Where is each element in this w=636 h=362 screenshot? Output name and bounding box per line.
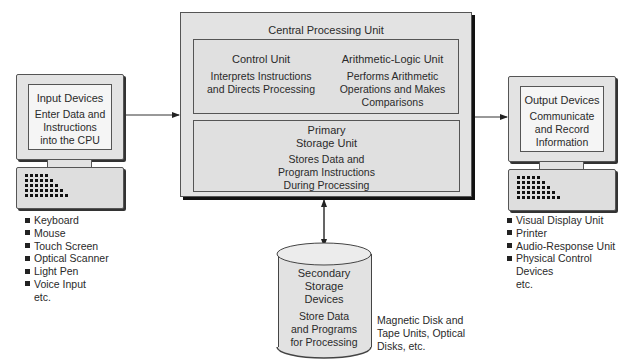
output-desc-2: and Record [521, 123, 603, 136]
cpu-box: Central Processing Unit Control Unit Int… [180, 12, 472, 197]
list-item: Touch Screen [25, 240, 109, 253]
secondary-title-1: Secondary [278, 267, 370, 280]
primary-storage-box: Primary Storage Unit Stores Data and Pro… [193, 120, 460, 192]
list-item-etc: etc. [25, 291, 109, 304]
input-examples-list: Keyboard Mouse Touch Screen Optical Scan… [25, 214, 109, 304]
list-item-etc: etc. [507, 278, 615, 291]
alu-desc-3: Comparisons [327, 96, 458, 109]
secondary-example-2: Tape Units, Optical [377, 327, 465, 340]
alu-desc-1: Performs Arithmetic [327, 70, 458, 83]
input-keyboard-icon [16, 167, 124, 209]
secondary-desc-2: and Programs [278, 323, 370, 336]
list-item: Physical Control [507, 252, 615, 265]
input-title: Input Devices [29, 92, 111, 105]
control-unit-box: Control Unit Interprets Instructions and… [193, 39, 329, 114]
input-screen: Input Devices Enter Data and Instruction… [28, 84, 112, 150]
alu-box: Arithmetic-Logic Unit Performs Arithmeti… [327, 39, 459, 114]
input-desc-1: Enter Data and [29, 108, 111, 121]
list-item: Printer [507, 227, 615, 240]
secondary-title-2: Storage [278, 280, 370, 293]
secondary-desc-1: Store Data [278, 310, 370, 323]
output-screen: Output Devices Communicate and Record In… [520, 86, 604, 152]
list-item: Visual Display Unit [507, 214, 615, 227]
input-desc-2: Instructions [29, 121, 111, 134]
primary-storage-desc-3: During Processing [194, 179, 459, 192]
output-title: Output Devices [521, 94, 603, 107]
input-desc-3: into the CPU [29, 134, 111, 147]
primary-storage-title-1: Primary [194, 124, 459, 137]
list-item-cont: Devices [507, 265, 615, 278]
secondary-storage-text: Secondary Storage Devices Store Data and… [278, 267, 370, 349]
secondary-desc-3: for Processing [278, 336, 370, 349]
list-item: Audio-Response Unit [507, 240, 615, 253]
output-examples-list: Visual Display Unit Printer Audio-Respon… [507, 214, 615, 291]
primary-storage-desc-2: Program Instructions [194, 166, 459, 179]
list-item: Keyboard [25, 214, 109, 227]
alu-title: Arithmetic-Logic Unit [327, 53, 458, 66]
control-unit-title: Control Unit [194, 53, 328, 66]
secondary-example-1: Magnetic Disk and [377, 314, 465, 327]
list-item: Mouse [25, 227, 109, 240]
primary-storage-desc-1: Stores Data and [194, 153, 459, 166]
keypad-dots-icon [25, 174, 85, 204]
primary-storage-title-2: Storage Unit [194, 137, 459, 150]
secondary-title-3: Devices [278, 293, 370, 306]
control-unit-desc-1: Interprets Instructions [194, 70, 328, 83]
list-item: Optical Scanner [25, 252, 109, 265]
output-desc-1: Communicate [521, 110, 603, 123]
list-item: Voice Input [25, 278, 109, 291]
output-keyboard-icon [508, 169, 616, 211]
alu-desc-2: Operations and Makes [327, 83, 458, 96]
cpu-title: Central Processing Unit [181, 24, 471, 37]
keypad-dots-icon [517, 176, 577, 206]
input-monitor-icon: Input Devices Enter Data and Instruction… [16, 74, 124, 160]
secondary-example-3: Disks, etc. [377, 340, 465, 353]
control-unit-desc-2: and Directs Processing [194, 83, 328, 96]
output-monitor-icon: Output Devices Communicate and Record In… [508, 76, 616, 162]
output-desc-3: Information [521, 136, 603, 149]
secondary-examples: Magnetic Disk and Tape Units, Optical Di… [377, 314, 465, 353]
list-item: Light Pen [25, 265, 109, 278]
